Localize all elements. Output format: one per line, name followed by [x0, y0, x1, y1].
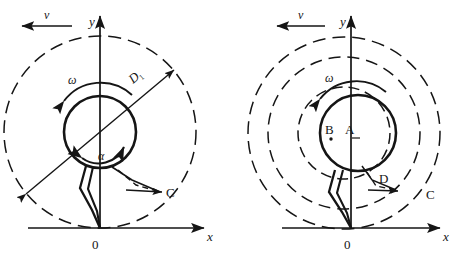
left-blade-inner	[88, 167, 100, 228]
right-point-d-label: D	[379, 171, 388, 186]
right-point-c-label: C	[426, 187, 435, 202]
wheel-kinematics-figure: y x 0 v D 1 ω α C	[0, 0, 462, 259]
right-y-axis-label: y	[338, 14, 346, 29]
right-d-leader	[368, 190, 398, 191]
point-b-marker	[329, 137, 332, 140]
left-velocity-label: v	[44, 8, 50, 22]
left-alpha-label: α	[98, 149, 105, 163]
right-panel: y x 0 v ω B A D C	[248, 8, 449, 252]
figure-canvas: y x 0 v D 1 ω α C	[0, 0, 462, 259]
left-y-axis-label: y	[87, 14, 95, 29]
left-point-c-label: C	[166, 185, 175, 200]
right-point-a-label: A	[345, 122, 355, 137]
right-origin-label: 0	[344, 237, 351, 252]
right-x-axis-label: x	[442, 229, 449, 244]
right-point-b-label: B	[325, 122, 334, 137]
right-dashed-circle-outer	[248, 37, 440, 229]
left-x-axis-label: x	[206, 229, 213, 244]
left-omega-label: ω	[68, 73, 76, 87]
left-origin-label: 0	[92, 237, 99, 252]
right-omega-label: ω	[325, 71, 333, 85]
left-diameter-label-group: D 1	[125, 66, 147, 88]
left-panel: y x 0 v D 1 ω α C	[4, 8, 213, 252]
left-blade-outer	[80, 166, 100, 228]
right-velocity-label: v	[298, 8, 304, 22]
